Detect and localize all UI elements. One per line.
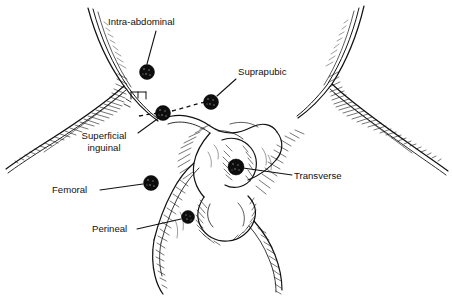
hernia-sites-figure: Intra-abdominal Suprapubic Superficial i… (0, 0, 452, 307)
inguinal-canal-dashed-line (139, 102, 205, 116)
central-pubic-mound (163, 115, 282, 197)
label-transverse: Transverse (294, 170, 342, 181)
leader-perineal (137, 219, 181, 229)
perineum-hatching (196, 198, 256, 245)
left-upper-hatching (104, 22, 126, 68)
right-upper-hatching (326, 20, 348, 66)
leader-lines (100, 31, 292, 229)
labels: Intra-abdominal Suprapubic Superficial i… (52, 16, 342, 234)
illustration-canvas: Intra-abdominal Suprapubic Superficial i… (0, 0, 452, 307)
label-suprapubic: Suprapubic (238, 66, 287, 77)
marker-transverse[interactable] (228, 159, 244, 175)
right-thigh-contour (297, 6, 448, 175)
right-medial-hatching (256, 130, 304, 194)
marker-femoral[interactable] (144, 176, 159, 191)
label-perineal: Perineal (92, 223, 127, 234)
leader-intra-abdominal (147, 31, 156, 64)
anatomy-drawing (6, 6, 448, 294)
marker-superficial-inguinal[interactable] (156, 106, 171, 121)
leader-superficial-inguinal (138, 117, 160, 133)
left-thigh-contour (6, 8, 158, 173)
label-superficial-inguinal-line2: inguinal (87, 142, 120, 153)
marker-intra-abdominal[interactable] (140, 65, 155, 80)
hernia-site-markers (140, 65, 245, 224)
right-crease-hatching (329, 72, 441, 161)
label-superficial-inguinal: Superficial inguinal (82, 130, 127, 153)
marker-suprapubic[interactable] (204, 95, 219, 110)
label-superficial-inguinal-line1: Superficial (82, 130, 127, 141)
perineal-body (196, 196, 256, 245)
leader-suprapubic (217, 79, 236, 96)
leader-femoral (100, 184, 143, 190)
label-femoral: Femoral (52, 184, 87, 195)
marker-perineal[interactable] (182, 211, 195, 224)
label-intra-abdominal: Intra-abdominal (108, 16, 175, 27)
